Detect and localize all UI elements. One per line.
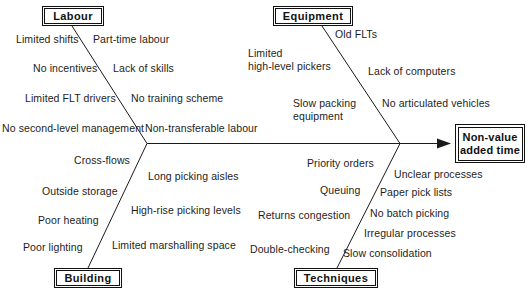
effect-label-line1: Non-value xyxy=(463,131,518,144)
category-box-techniques[interactable]: Techniques xyxy=(294,268,378,288)
cause-priority-orders: Priority orders xyxy=(307,157,374,170)
cause-no-articulated-vehicles: No articulated vehicles xyxy=(382,97,490,110)
fishbone-diagram: Labour Equipment Building Techniques Non… xyxy=(0,0,528,296)
cause-slow-consolidation: Slow consolidation xyxy=(343,247,432,260)
cause-poor-lighting: Poor lighting xyxy=(23,241,83,254)
category-box-equipment[interactable]: Equipment xyxy=(273,6,353,26)
cause-non-transferable-labour: Non-transferable labour xyxy=(145,122,258,135)
category-box-building[interactable]: Building xyxy=(54,268,122,288)
cause-part-time-labour: Part-time labour xyxy=(93,33,169,46)
cause-no-batch-picking: No batch picking xyxy=(370,207,449,220)
effect-label-line2: added time xyxy=(460,144,520,157)
cause-limited-marshalling-space: Limited marshalling space xyxy=(112,239,236,252)
cause-no-training-scheme: No training scheme xyxy=(131,92,223,105)
cause-limited-shifts: Limited shifts xyxy=(16,33,79,46)
cause-no-second-level-management: No second-level management xyxy=(2,122,144,135)
category-box-labour[interactable]: Labour xyxy=(42,6,104,26)
cause-limited-flt-drivers: Limited FLT drivers xyxy=(25,92,116,105)
cause-long-picking-aisles: Long picking aisles xyxy=(148,170,239,183)
cause-high-rise-picking-levels: High-rise picking levels xyxy=(131,204,241,217)
category-label-techniques: Techniques xyxy=(296,270,376,286)
cause-lack-of-computers: Lack of computers xyxy=(368,65,456,78)
cause-old-flts: Old FLTs xyxy=(335,28,377,41)
cause-outside-storage: Outside storage xyxy=(42,185,118,198)
cause-poor-heating: Poor heating xyxy=(38,214,99,227)
cause-slow-packing-line2: equipment xyxy=(293,110,343,123)
effect-box-non-value-added-time[interactable]: Non-value added time xyxy=(455,124,525,163)
cause-limited-high-level-pickers-line1: Limited xyxy=(248,47,283,60)
category-label-equipment: Equipment xyxy=(275,8,351,24)
cause-paper-pick-lists: Paper pick lists xyxy=(380,186,452,199)
bone-equipment xyxy=(322,26,400,144)
effect-label: Non-value added time xyxy=(458,127,523,161)
cause-unclear-processes: Unclear processes xyxy=(394,168,483,181)
cause-lack-of-skills: Lack of skills xyxy=(113,62,174,75)
category-label-labour: Labour xyxy=(44,8,102,24)
cause-returns-congestion: Returns congestion xyxy=(258,209,350,222)
cause-cross-flows: Cross-flows xyxy=(74,154,130,167)
cause-queuing: Queuing xyxy=(320,184,360,197)
cause-no-incentives: No incentives xyxy=(33,62,97,75)
cause-double-checking: Double-checking xyxy=(250,243,330,256)
cause-slow-packing-line1: Slow packing xyxy=(293,97,356,110)
spine-arrowhead xyxy=(437,139,451,149)
category-label-building: Building xyxy=(56,270,120,286)
cause-limited-high-level-pickers-line2: high-level pickers xyxy=(248,60,331,73)
cause-irregular-processes: Irregular processes xyxy=(364,227,456,240)
